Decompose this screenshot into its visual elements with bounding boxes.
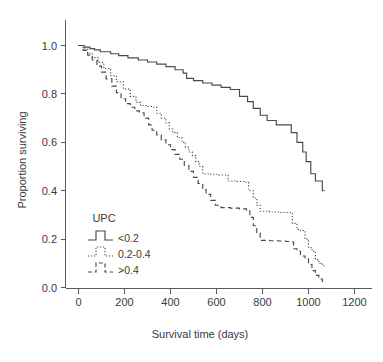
x-tick-label-0: 0 (75, 296, 81, 308)
y-axis-tick-labels: 1.0 0.8 0.6 0.4 0.2 0.0 (42, 40, 57, 294)
survival-curve-chart: 1.0 0.8 0.6 0.4 0.2 0.0 0 200 400 600 80… (0, 0, 383, 362)
legend: UPC <0.2 0.2-0.4 >0.4 (88, 212, 151, 276)
y-axis-title: Proportion surviving (16, 111, 28, 208)
y-tick-label-0.6: 0.6 (42, 136, 57, 148)
y-tick-label-0.4: 0.4 (42, 185, 57, 197)
legend-label-2: >0.4 (118, 264, 139, 276)
legend-label-0: <0.2 (118, 232, 139, 244)
legend-swatch-dashed (88, 263, 113, 272)
y-tick-label-1.0: 1.0 (42, 40, 57, 52)
y-tick-label-0.0: 0.0 (42, 282, 57, 294)
x-tick-label-400: 400 (161, 296, 179, 308)
y-axis-ticks (61, 46, 66, 288)
x-tick-label-600: 600 (207, 296, 225, 308)
x-tick-label-800: 800 (253, 296, 271, 308)
x-tick-label-1000: 1000 (296, 296, 320, 308)
legend-item-0: <0.2 (88, 231, 139, 244)
legend-title: UPC (92, 212, 115, 224)
data-series-group (79, 46, 325, 283)
x-axis-ticks (79, 289, 355, 294)
x-tick-label-200: 200 (115, 296, 133, 308)
legend-swatch-solid (88, 231, 113, 240)
series-line-upc-0.2-0.4 (79, 46, 325, 267)
x-axis-tick-labels: 0 200 400 600 800 1000 1200 (75, 296, 366, 308)
legend-item-2: >0.4 (88, 263, 139, 276)
series-line-upc-lt-0.2 (79, 46, 325, 191)
x-axis-title: Survival time (days) (152, 328, 249, 340)
legend-item-1: 0.2-0.4 (88, 247, 151, 260)
legend-swatch-dotted (88, 247, 113, 256)
plot-canvas: 1.0 0.8 0.6 0.4 0.2 0.0 0 200 400 600 80… (0, 0, 383, 362)
y-tick-label-0.8: 0.8 (42, 88, 57, 100)
y-tick-label-0.2: 0.2 (42, 233, 57, 245)
legend-label-1: 0.2-0.4 (118, 248, 151, 260)
x-tick-label-1200: 1200 (342, 296, 366, 308)
